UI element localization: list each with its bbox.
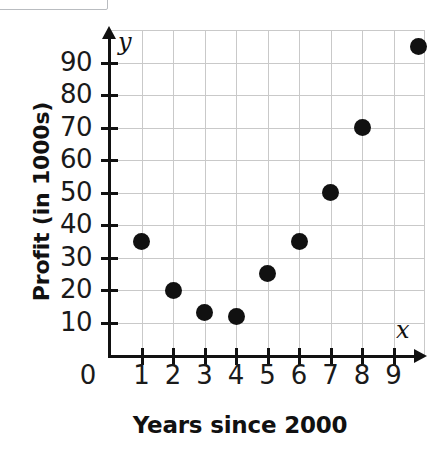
y-axis-arrow-icon (102, 26, 116, 39)
x-axis-tick-label: 7 (316, 362, 346, 388)
grid-line-horizontal (110, 323, 425, 324)
data-point (259, 265, 276, 282)
origin-label: 0 (73, 362, 103, 388)
y-axis-tick (101, 322, 118, 325)
y-axis-tick (101, 94, 118, 97)
data-point (165, 282, 182, 299)
data-point (322, 184, 339, 201)
x-axis-tick-label: 6 (284, 362, 314, 388)
y-axis-tick (101, 62, 118, 65)
y-axis-line (108, 36, 111, 358)
y-axis-tick (101, 257, 118, 260)
plot-area (110, 30, 425, 355)
x-variable-label: x (396, 318, 410, 342)
x-axis-tick-label: 4 (221, 362, 251, 388)
data-point (291, 233, 308, 250)
grid-line-horizontal (110, 193, 425, 194)
y-axis-tick (101, 159, 118, 162)
y-axis-title: Profit (in 1000s) (29, 77, 54, 327)
x-axis-line (108, 355, 418, 358)
x-axis-title: Years since 2000 (60, 412, 420, 438)
data-point (196, 304, 213, 321)
data-point (354, 119, 371, 136)
y-axis-tick (101, 224, 118, 227)
data-point (228, 308, 245, 325)
x-axis-tick-label: 3 (190, 362, 220, 388)
grid-line-horizontal (110, 290, 425, 291)
grid-line-horizontal (110, 258, 425, 259)
x-axis-tick-label: 8 (347, 362, 377, 388)
x-axis-tick-label: 9 (379, 362, 409, 388)
x-axis-tick-label: 5 (253, 362, 283, 388)
x-axis-arrow-icon (414, 349, 427, 363)
x-axis-tick-label: 2 (158, 362, 188, 388)
grid-line-horizontal (110, 225, 425, 226)
y-axis-tick (101, 127, 118, 130)
y-axis-tick (101, 192, 118, 195)
grid-line-horizontal (110, 95, 425, 96)
x-axis-tick-label: 1 (127, 362, 157, 388)
data-point (410, 38, 427, 55)
y-variable-label: y (118, 30, 132, 54)
grid-line-horizontal (110, 63, 425, 64)
grid-line-horizontal (110, 128, 425, 129)
data-point (133, 233, 150, 250)
grid-line-horizontal (110, 160, 425, 161)
scatter-plot-figure: 102030405060708090 123456789 0 y x Profi… (0, 0, 437, 453)
y-axis-tick (101, 289, 118, 292)
y-axis-tick-label: 90 (30, 49, 92, 75)
